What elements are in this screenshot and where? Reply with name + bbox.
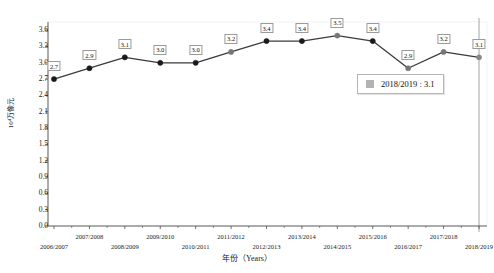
line-chart: 0.00.30.60.91.21.51.82.12.42.73.03.33.6 … — [0, 0, 494, 273]
data-point-label: 3.4 — [366, 23, 379, 33]
legend-swatch-icon — [366, 80, 374, 88]
y-axis-tick-label: 2.1 — [22, 108, 48, 116]
x-axis-tick-label: 2009/2010 — [146, 233, 174, 240]
x-axis-tick-label: 2016/2017 — [394, 243, 422, 250]
data-point-label: 3.1 — [472, 39, 485, 49]
data-point-label: 2.7 — [47, 61, 60, 71]
legend-label: 2018/2019 : 3.1 — [381, 79, 435, 89]
x-axis-tick-label: 2007/2008 — [76, 233, 104, 240]
legend-callout: 2018/2019 : 3.1 — [357, 74, 444, 94]
x-axis-tick-label: 2010/2011 — [182, 243, 210, 250]
x-axis-tick-label: 2013/2014 — [288, 233, 316, 240]
data-point-label: 3.5 — [331, 18, 344, 28]
y-axis-tick-label: 0.6 — [22, 189, 48, 197]
x-axis-tick-label: 2015/2016 — [359, 233, 387, 240]
y-axis-tick-label: 3.3 — [22, 42, 48, 50]
y-axis-tick-label: 2.4 — [22, 91, 48, 99]
y-axis-tick-label: 3.6 — [22, 26, 48, 34]
data-point-label: 3.0 — [189, 45, 202, 55]
data-point-label: 2.9 — [83, 50, 96, 60]
data-point-label: 3.2 — [437, 34, 450, 44]
plot-area — [0, 0, 494, 273]
y-axis-title: 10⁴万像元 — [5, 85, 15, 141]
x-axis-tick-label: 2006/2007 — [40, 243, 68, 250]
y-axis-tick-label: 1.2 — [22, 157, 48, 165]
y-axis-tick-label: 0.9 — [22, 173, 48, 181]
y-axis-tick-label: 3.0 — [22, 59, 48, 67]
y-axis-ticks: 0.00.30.60.91.21.51.82.12.42.73.03.33.6 — [14, 0, 48, 273]
data-point-label: 3.1 — [118, 39, 131, 49]
y-axis-tick-label: 0.3 — [22, 206, 48, 214]
y-axis-tick-label: 1.5 — [22, 140, 48, 148]
x-axis-tick-label: 2017/2018 — [430, 233, 458, 240]
x-axis-title: 年份（Years） — [0, 252, 494, 263]
data-point-label: 3.0 — [154, 45, 167, 55]
x-axis-tick-label: 2018/2019 — [465, 243, 493, 250]
data-point-label: 3.4 — [260, 23, 273, 33]
y-axis-tick-label: 2.7 — [22, 75, 48, 83]
x-axis-tick-label: 2012/2013 — [253, 243, 281, 250]
y-axis-tick-label: 1.8 — [22, 124, 48, 132]
data-point-label: 3.2 — [225, 34, 238, 44]
x-axis-tick-label: 2014/2015 — [323, 243, 351, 250]
y-axis-tick-label: 0.0 — [22, 222, 48, 230]
x-axis-tick-label: 2011/2012 — [217, 233, 245, 240]
x-axis-tick-label: 2008/2009 — [111, 243, 139, 250]
data-point-label: 3.4 — [295, 23, 308, 33]
data-point-label: 2.9 — [402, 50, 415, 60]
